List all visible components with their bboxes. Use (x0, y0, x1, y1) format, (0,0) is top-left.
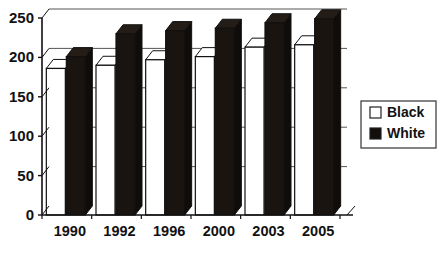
x-axis-category-label: 2005 (302, 223, 334, 239)
bar-white-2000 (215, 19, 241, 215)
bar-white-2005 (315, 10, 341, 215)
bar-white-2003 (265, 14, 291, 215)
y-axis-tick-label: 150 (9, 88, 34, 105)
bar-white-1996 (166, 22, 192, 215)
bars-group (46, 10, 340, 215)
bar-white-1992 (116, 25, 142, 215)
y-axis-tick-label: 50 (17, 167, 34, 184)
y-axis-tick-label: 0 (26, 206, 34, 223)
x-axis-category-label: 2000 (203, 223, 235, 239)
bar-white-1990 (66, 48, 92, 215)
y-axis-tick-label: 100 (9, 127, 34, 144)
x-axis-category-label: 1992 (103, 223, 135, 239)
x-axis-category-label: 1996 (153, 223, 185, 239)
legend-label-black: Black (387, 104, 425, 120)
y-axis-depth-tick (42, 48, 49, 57)
y-axis-tick-labels: 050100150200250 (9, 9, 34, 223)
legend-swatch-white-icon (370, 128, 381, 139)
legend-label-white: White (387, 125, 425, 141)
legend-swatch-black-icon (370, 107, 381, 118)
y-axis-tick-label: 200 (9, 48, 34, 65)
x-axis-category-labels: 199019921996200020032005 (54, 223, 335, 239)
x-axis-category-label: 2003 (252, 223, 284, 239)
x-axis-category-label: 1990 (54, 223, 86, 239)
y-axis-tick-label: 250 (9, 9, 34, 26)
bar-chart: 050100150200250 199019921996200020032005… (0, 0, 443, 253)
chart-canvas: 050100150200250 199019921996200020032005… (0, 0, 443, 253)
axis-depth-connector-right (347, 206, 355, 215)
y-axis-depth-tick (42, 9, 49, 18)
chart-legend: BlackWhite (361, 101, 436, 148)
